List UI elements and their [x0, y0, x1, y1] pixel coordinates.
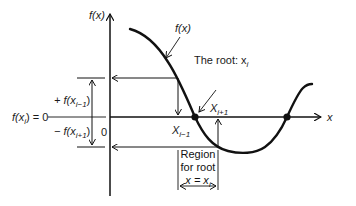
function-curve — [130, 29, 312, 153]
plus-f-subscript: i−1 — [76, 100, 87, 109]
curve-label: f(x) — [175, 22, 191, 34]
f-xi-tail: ) = 0 — [26, 111, 48, 123]
minus-f-label: − f(xi+1) — [54, 125, 90, 142]
root-label: The root: xi — [194, 54, 248, 71]
x-ip1-label: Xi+1 — [210, 102, 228, 119]
region-line-3-subscript: i — [209, 180, 211, 189]
x-im1-subscript: i−1 — [179, 130, 190, 139]
f-xi-text: f(x — [12, 111, 24, 123]
region-line-3-text: x = x — [185, 174, 209, 186]
root-label-text: The root: x — [194, 54, 247, 66]
plus-f-label: + f(xi−1) — [54, 94, 90, 111]
root-point-2 — [283, 113, 290, 120]
minus-f-paren: ) — [87, 125, 91, 137]
plus-f-paren: ) — [87, 94, 91, 106]
region-line-2: for root — [176, 161, 220, 174]
x-axis-label: x — [327, 111, 333, 123]
region-label: Region for root x = xi — [176, 148, 220, 191]
curve-label-leader — [166, 37, 180, 58]
origin-label: 0 — [101, 126, 107, 138]
minus-f-subscript: i+1 — [76, 131, 87, 140]
region-line-3: x = xi — [176, 174, 220, 191]
root-point-1 — [191, 113, 198, 120]
minus-f-text: − f(x — [54, 125, 76, 137]
x-ip1-subscript: i+1 — [217, 108, 228, 117]
plus-f-text: + f(x — [54, 94, 76, 106]
f-xi-zero-label: f(xi) = 0 — [12, 111, 48, 128]
x-im1-label: Xi−1 — [172, 124, 190, 141]
y-axis-label: f(x) — [89, 9, 105, 21]
region-line-1: Region — [176, 148, 220, 161]
root-label-subscript: i — [247, 60, 249, 69]
